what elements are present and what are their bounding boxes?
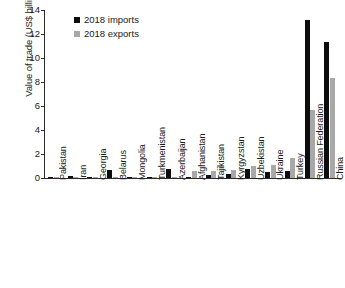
y-tick-mark bbox=[41, 130, 44, 131]
bar bbox=[166, 169, 171, 178]
x-category-label: Uzbekistan bbox=[256, 136, 266, 180]
legend-item: 2018 exports bbox=[74, 28, 139, 40]
x-category-label: Azerbaijan bbox=[177, 138, 187, 180]
y-tick-mark bbox=[41, 34, 44, 35]
y-tick-label: 2 bbox=[14, 149, 40, 159]
bar bbox=[285, 171, 290, 178]
x-category-label: Georgia bbox=[98, 149, 108, 180]
x-category-label: Russian Federation bbox=[315, 104, 325, 180]
bar bbox=[324, 42, 329, 178]
x-category-label: Ukraine bbox=[275, 150, 285, 180]
legend-item: 2018 imports bbox=[74, 14, 139, 26]
y-tick-label: 4 bbox=[14, 125, 40, 135]
x-category-label: Kyrgyzstan bbox=[236, 136, 246, 180]
legend-swatch-icon bbox=[74, 31, 80, 37]
y-tick-mark bbox=[41, 106, 44, 107]
legend-swatch-icon bbox=[74, 17, 80, 23]
y-tick-label: 6 bbox=[14, 101, 40, 111]
bar bbox=[305, 20, 310, 178]
y-tick-label: 14 bbox=[14, 5, 40, 15]
bar bbox=[226, 174, 231, 178]
bar bbox=[147, 177, 152, 178]
legend-label: 2018 imports bbox=[84, 15, 139, 25]
bar bbox=[192, 171, 197, 178]
x-category-label: Mongolia bbox=[137, 144, 147, 180]
bar bbox=[113, 177, 118, 178]
y-tick-mark bbox=[41, 154, 44, 155]
x-category-label: Turkmenistan bbox=[157, 127, 167, 180]
x-axis-category-labels: PakistanIranGeorgiaBelarusMongoliaTurkme… bbox=[45, 180, 342, 286]
y-tick-label: 8 bbox=[14, 77, 40, 87]
y-tick-label: 10 bbox=[14, 53, 40, 63]
y-tick-mark bbox=[41, 10, 44, 11]
bar bbox=[48, 177, 53, 178]
x-category-label: China bbox=[335, 157, 345, 180]
x-category-label: Iran bbox=[78, 165, 88, 180]
y-tick-mark bbox=[41, 178, 44, 179]
bar bbox=[87, 177, 92, 178]
x-category-label: Tajikistan bbox=[216, 144, 226, 180]
y-tick-label: 12 bbox=[14, 29, 40, 39]
bar bbox=[68, 176, 73, 178]
y-tick-mark bbox=[41, 58, 44, 59]
chart-legend: 2018 imports2018 exports bbox=[74, 14, 139, 42]
legend-label: 2018 exports bbox=[84, 29, 139, 39]
x-category-label: Pakistan bbox=[58, 146, 68, 180]
x-category-label: Turkey bbox=[295, 153, 305, 180]
y-tick-mark bbox=[41, 82, 44, 83]
x-category-label: Afghanistan bbox=[197, 134, 207, 180]
bar-chart: Value of trade (US$ billions) 0246810121… bbox=[0, 0, 345, 288]
bar bbox=[245, 169, 250, 178]
x-category-label: Belarus bbox=[118, 150, 128, 180]
y-tick-label: 0 bbox=[14, 173, 40, 183]
